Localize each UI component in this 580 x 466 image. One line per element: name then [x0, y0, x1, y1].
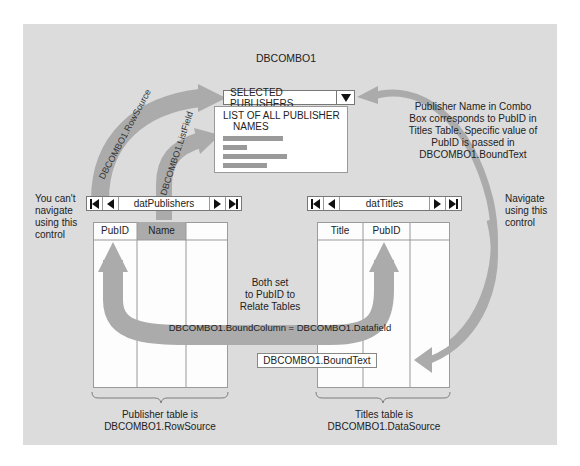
- datpublishers-data-control[interactable]: datPublishers: [86, 196, 242, 211]
- combo-title: DBCOMBO1: [256, 52, 316, 64]
- first-icon: [92, 199, 99, 209]
- list-item[interactable]: [223, 163, 267, 168]
- bound-text-note: Publisher Name in Combo Box corresponds …: [398, 101, 548, 161]
- prev-icon: [328, 199, 335, 209]
- next-icon: [214, 199, 221, 209]
- list-item[interactable]: [223, 136, 283, 141]
- next-icon: [434, 199, 441, 209]
- first-icon: [313, 199, 320, 209]
- dattitles-caption: datTitles: [340, 198, 429, 209]
- dattitles-data-control[interactable]: datTitles: [307, 196, 462, 211]
- datpublishers-caption: datPublishers: [119, 198, 209, 209]
- publishers-col-pubid: PubID: [93, 222, 137, 240]
- titles-table-note: Titles table is DBCOMBO1.DataSource: [312, 409, 456, 433]
- last-record-button[interactable]: [225, 197, 241, 210]
- dropdown-triangle-icon: [341, 94, 351, 102]
- publisher-table-note: Publisher table is DBCOMBO1.RowSource: [90, 409, 230, 433]
- prev-record-button[interactable]: [324, 197, 340, 210]
- list-item[interactable]: [223, 154, 287, 159]
- first-record-button[interactable]: [87, 197, 103, 210]
- last-icon-bar: [236, 199, 238, 209]
- publisher-combo-box[interactable]: SELECTED PUBLISHERS: [223, 90, 355, 105]
- bound-text-box: DBCOMBO1.BoundText: [257, 353, 377, 368]
- list-header-line1: LIST OF ALL PUBLISHER: [223, 110, 347, 121]
- last-icon-bar: [456, 199, 458, 209]
- next-record-button[interactable]: [429, 197, 445, 210]
- cant-navigate-note: You can't navigate using this control: [35, 193, 77, 241]
- last-record-button[interactable]: [445, 197, 461, 210]
- bound-column-label: DBCOMBO1.BoundColumn = DBCOMBO1.Datafiel…: [140, 322, 420, 334]
- publishers-col-name: Name: [137, 222, 186, 240]
- first-record-button[interactable]: [308, 197, 324, 210]
- titles-col-pubid: PubID: [363, 222, 410, 240]
- list-header-line2: NAMES: [223, 121, 347, 132]
- last-icon: [449, 199, 456, 209]
- last-icon: [229, 199, 236, 209]
- combo-dropdown-list[interactable]: LIST OF ALL PUBLISHER NAMES: [214, 106, 348, 173]
- navigate-note: Navigate using this control: [505, 193, 547, 229]
- list-item[interactable]: [223, 145, 247, 150]
- combo-dropdown-button[interactable]: [336, 91, 354, 104]
- both-set-note: Both set to PubID to Relate Tables: [230, 277, 310, 313]
- next-record-button[interactable]: [209, 197, 225, 210]
- prev-icon: [107, 199, 114, 209]
- titles-col-title: Title: [317, 222, 363, 240]
- prev-record-button[interactable]: [103, 197, 119, 210]
